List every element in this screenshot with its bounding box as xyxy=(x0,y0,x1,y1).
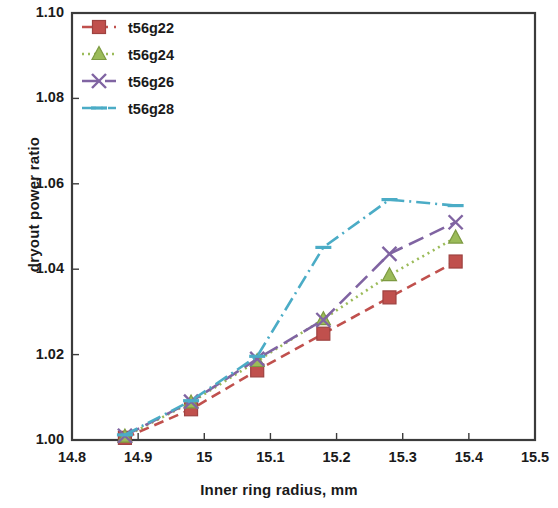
legend-item-t56g28[interactable]: t56g28 xyxy=(82,101,174,117)
data-point-marker xyxy=(93,21,106,34)
data-point-marker xyxy=(317,327,330,340)
data-point-marker xyxy=(382,247,396,261)
legend-item-t56g24[interactable]: t56g24 xyxy=(82,47,174,63)
legend-label: t56g22 xyxy=(128,20,174,36)
legend-label: t56g26 xyxy=(128,74,174,90)
legend-label: t56g24 xyxy=(128,47,174,63)
series-t56g22 xyxy=(118,255,462,444)
data-point-marker xyxy=(449,255,462,268)
chart-legend: t56g22t56g24t56g26t56g28 xyxy=(82,20,174,117)
series-t56g24 xyxy=(118,230,463,442)
data-point-marker xyxy=(382,268,396,281)
data-point-marker xyxy=(383,291,396,304)
data-point-marker xyxy=(449,215,463,229)
series-t56g28 xyxy=(117,200,464,435)
legend-item-t56g22[interactable]: t56g22 xyxy=(82,20,174,36)
series-line xyxy=(125,200,456,435)
data-series-group xyxy=(117,200,464,445)
plot-area: t56g22t56g24t56g26t56g28 xyxy=(0,0,558,508)
legend-label: t56g28 xyxy=(128,101,174,117)
legend-item-t56g26[interactable]: t56g26 xyxy=(82,74,174,90)
series-t56g26 xyxy=(118,215,463,443)
data-point-marker xyxy=(449,230,463,243)
series-line xyxy=(125,222,456,436)
chart-container: dryout power ratio Inner ring radius, mm… xyxy=(0,0,558,508)
series-line xyxy=(125,238,456,437)
